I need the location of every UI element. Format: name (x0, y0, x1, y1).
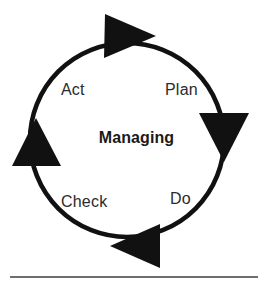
cycle-center-label: Managing (0, 130, 273, 146)
bottom-divider (10, 276, 258, 278)
stage-label-plan: Plan (165, 82, 198, 98)
arrow-bottom-icon (110, 224, 160, 268)
stage-label-check: Check (61, 194, 107, 210)
pdca-cycle-diagram: Act Plan Check Do Managing (0, 0, 273, 289)
arrow-top-icon (104, 14, 156, 58)
stage-label-do: Do (170, 191, 191, 207)
stage-label-act: Act (61, 82, 85, 98)
